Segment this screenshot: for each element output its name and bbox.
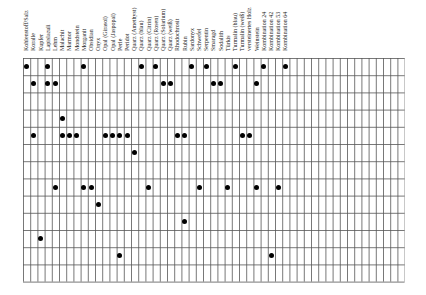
column-label-text: Kupfer	[37, 34, 44, 51]
column-label-text: Quarz (Rosen)	[152, 16, 159, 51]
column-label: Perle	[116, 0, 123, 58]
matrix-dot	[67, 133, 72, 138]
column-label-text: Opal (Jaspopal)	[109, 13, 116, 51]
column-label-text: Smaragd	[210, 30, 217, 51]
matrix-dot	[60, 116, 65, 121]
column-label-text: Kombination 64	[282, 12, 289, 51]
column-label-text: Kombination 24	[260, 12, 267, 51]
column-label: Kombination 24	[260, 0, 267, 58]
matrix-dot	[197, 185, 202, 190]
column-label: Weinstein	[253, 0, 260, 58]
column-label: Opal (Jaspopal)	[109, 0, 116, 58]
matrix-dot	[125, 133, 130, 138]
column-label: versteinertes Holz	[246, 0, 253, 58]
column-label-text: Koralle	[30, 33, 37, 51]
column-label-text: Türkis	[224, 35, 231, 51]
column-label-text: versteinertes Holz	[246, 8, 253, 51]
column-label: Türkis	[224, 0, 231, 58]
column-label-text: Quarz (blau)	[138, 21, 145, 51]
column-label: Quarz (Rosen)	[152, 0, 159, 58]
column-label-text: Sodalith	[217, 31, 224, 51]
column-label: Quarz (blau)	[138, 0, 145, 58]
matrix-dot	[89, 185, 94, 190]
column-label: Rhodochrosit	[174, 0, 181, 58]
matrix-dot	[233, 64, 238, 69]
matrix-dot	[225, 185, 230, 190]
column-label-text: Rubin	[181, 36, 188, 51]
column-label: Smaragd	[210, 0, 217, 58]
column-label: Opal (Girasol)	[102, 0, 109, 58]
matrix-dot	[60, 133, 65, 138]
matrix-dot	[146, 185, 151, 190]
column-label-text: Mondstein	[73, 25, 80, 51]
column-label-text: Lapislazuli	[44, 24, 51, 51]
matrix-dot	[53, 81, 58, 86]
matrix-dot	[96, 202, 101, 207]
matrix-dot	[175, 133, 180, 138]
matrix-dot	[53, 185, 58, 190]
column-label: Lapislazuli	[44, 0, 51, 58]
matrix-dot	[276, 185, 281, 190]
column-label: Mondstein	[73, 0, 80, 58]
column-label-text: Rhodochrosit	[174, 19, 181, 51]
column-label-text: Marmor	[66, 31, 73, 51]
matrix-dot	[247, 133, 252, 138]
matrix-dot	[161, 81, 166, 86]
matrix-dot	[240, 133, 245, 138]
column-label-text: Morganit	[80, 29, 87, 51]
column-label-text: Quarz (Citrin)	[145, 17, 152, 51]
matrix-dot	[269, 253, 274, 258]
matrix-dot	[81, 185, 86, 190]
column-label: Kombination 64	[282, 0, 289, 58]
matrix-dot	[24, 64, 29, 69]
incidence-matrix-chart: Kohlenstoff/SalzKoralleKupferLapislazuli…	[0, 0, 426, 295]
matrix-dot	[204, 64, 209, 69]
column-label-text: Perle	[116, 39, 123, 51]
column-label-text: Weinstein	[253, 27, 260, 51]
column-label: Koralle	[30, 0, 37, 58]
column-label: Rubin	[181, 0, 188, 58]
matrix-dot	[254, 185, 259, 190]
matrix-grid	[23, 58, 406, 283]
column-label: Kupfer	[37, 0, 44, 58]
column-label-text: Opal (Girasol)	[102, 16, 109, 51]
matrix-dot	[31, 133, 36, 138]
column-label: Sardonyx	[188, 0, 195, 58]
column-label: Morganit	[80, 0, 87, 58]
column-label-text: Sardonyx	[188, 28, 195, 51]
matrix-dot	[132, 150, 137, 155]
column-label: Sodalith	[217, 0, 224, 58]
column-label: Quarz (Citrin)	[145, 0, 152, 58]
matrix-dot	[103, 133, 108, 138]
column-label: Marmor	[66, 0, 73, 58]
